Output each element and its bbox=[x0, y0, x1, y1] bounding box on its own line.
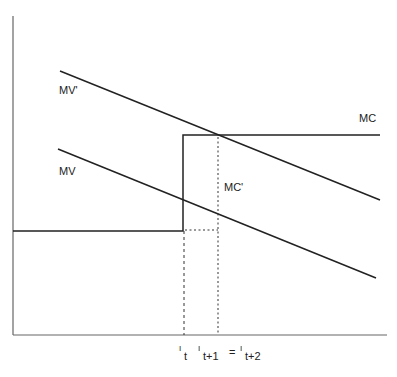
it1-label-main: I bbox=[198, 344, 200, 353]
equals-sign: = bbox=[229, 346, 235, 358]
mc-label: MC bbox=[359, 112, 376, 124]
it2-label-main: I bbox=[240, 344, 242, 353]
it-label-main: I bbox=[179, 344, 181, 353]
mv-prime-label: MV' bbox=[59, 84, 78, 96]
it-label-sub: t bbox=[184, 350, 187, 362]
mc-curve bbox=[13, 135, 380, 231]
mv-label: MV bbox=[59, 165, 76, 177]
it1-label-sub: t+1 bbox=[203, 350, 219, 362]
economics-diagram: MV' MV MC MC' I t I t+1 = I t+2 bbox=[0, 0, 397, 377]
mv-curve bbox=[58, 149, 376, 278]
it2-label-sub: t+2 bbox=[245, 350, 261, 362]
mc-prime-label: MC' bbox=[224, 181, 243, 193]
